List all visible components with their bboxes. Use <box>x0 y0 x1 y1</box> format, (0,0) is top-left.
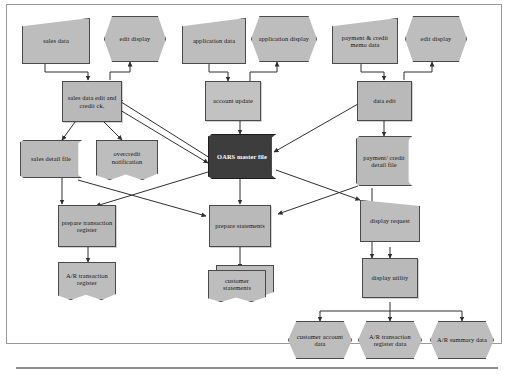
node-sales-detail-file-label: sales detail file <box>29 155 73 162</box>
node-application-display[interactable]: application display <box>251 16 317 62</box>
node-payment-credit-memo-data-label: payment & credit memo data <box>333 34 397 48</box>
node-prepare-transaction-register-label: prepare transaction register <box>59 219 115 233</box>
node-sales-data-label: sales data <box>41 37 71 44</box>
node-edit-display-right-label: edit display <box>419 35 454 42</box>
flowchart-figure: sales data edit display application data… <box>0 0 514 380</box>
node-oars-master-file[interactable]: OARS master file <box>208 134 276 179</box>
node-display-utility[interactable]: display utility <box>362 258 418 298</box>
node-ar-transaction-register-label: A/R transaction register <box>59 272 115 286</box>
node-data-edit-label: data edit <box>371 97 398 104</box>
node-customer-statements[interactable]: customer statements <box>208 270 266 302</box>
node-application-display-label: application display <box>257 35 311 42</box>
node-customer-account-data-label: customer account data <box>289 333 351 347</box>
node-display-request[interactable]: display request <box>360 200 420 242</box>
node-display-utility-label: display utility <box>370 274 411 281</box>
node-payment-credit-detail-file[interactable]: payment/ credit detail file <box>356 136 412 186</box>
node-application-data-label: application data <box>191 37 237 44</box>
node-ar-summary-data[interactable]: A/R summary data <box>430 321 494 359</box>
node-prepare-statements-label: prepare statements <box>213 222 267 229</box>
node-account-update[interactable]: account update <box>205 81 261 121</box>
node-ar-transaction-register-data[interactable]: A/R transaction register data <box>358 321 422 359</box>
node-sales-data-edit-credit-check-label: sales data edit and credit ck. <box>63 94 121 108</box>
node-display-request-label: display request <box>368 217 412 224</box>
node-sales-detail-file[interactable]: sales detail file <box>20 140 82 178</box>
node-data-edit[interactable]: data edit <box>357 81 412 121</box>
figure-baseline-rule <box>16 367 498 369</box>
node-ar-transaction-register-data-label: A/R transaction register data <box>359 333 421 347</box>
node-sales-data-edit-credit-check[interactable]: sales data edit and credit ck. <box>62 81 122 122</box>
node-customer-statements-label: customer statements <box>209 277 265 291</box>
node-payment-credit-detail-file-label: payment/ credit detail file <box>357 154 411 168</box>
node-ar-transaction-register[interactable]: A/R transaction register <box>58 262 116 300</box>
node-prepare-transaction-register[interactable]: prepare transaction register <box>58 205 116 247</box>
node-edit-display-right[interactable]: edit display <box>405 16 467 62</box>
node-customer-account-data[interactable]: customer account data <box>288 321 352 359</box>
node-overcredit-notification[interactable]: overcredit notification <box>96 140 158 180</box>
node-ar-summary-data-label: A/R summary data <box>435 336 489 343</box>
node-overcredit-notification-label: overcredit notification <box>97 150 157 164</box>
node-edit-display-left[interactable]: edit display <box>104 16 166 62</box>
node-prepare-statements[interactable]: prepare statements <box>209 205 271 247</box>
node-oars-master-file-label: OARS master file <box>215 153 269 160</box>
node-account-update-label: account update <box>211 97 255 104</box>
node-edit-display-left-label: edit display <box>118 35 153 42</box>
